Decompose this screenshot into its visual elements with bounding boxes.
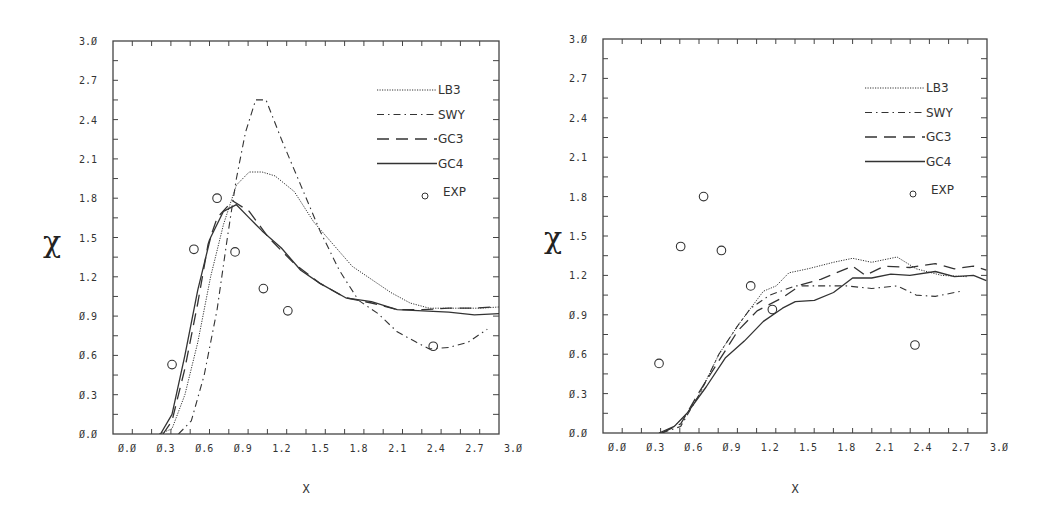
y-tick-label: 1.5 [569, 231, 587, 242]
x-tick-label: 1.5 [799, 442, 817, 453]
legend-label: LB3 [926, 81, 949, 95]
exp-data-point [699, 192, 708, 201]
legend-label: EXP [931, 183, 954, 197]
series-gc4-line [161, 205, 501, 434]
y-tick-label: 3.Ø [79, 36, 97, 47]
x-tick-label: 2.1 [388, 443, 406, 454]
y-tick-label: 1.2 [569, 270, 587, 281]
chart-right: Ø.ØØ.3Ø.6Ø.91.21.51.82.12.42.73.ØØ.ØØ.3Ø… [544, 34, 1008, 496]
legend-label: LB3 [438, 83, 461, 97]
y-tick-label: 2.4 [569, 113, 587, 124]
x-tick-label: 1.8 [350, 443, 368, 454]
y-tick-label: Ø.9 [79, 311, 97, 322]
plot-frame [113, 41, 499, 434]
x-tick-label: Ø.3 [646, 442, 664, 453]
y-tick-label: Ø.Ø [569, 428, 587, 439]
legend-label: GC3 [438, 132, 463, 146]
exp-data-point [259, 284, 268, 293]
x-tick-label: Ø.9 [234, 443, 252, 454]
exp-data-point [717, 246, 726, 255]
x-tick-label: 1.8 [837, 442, 855, 453]
series-lb3-line [159, 172, 500, 434]
y-tick-label: 1.8 [569, 192, 587, 203]
y-tick-label: Ø.6 [569, 349, 587, 360]
x-tick-label: 3.Ø [504, 443, 522, 454]
y-axis-label: χ [544, 220, 562, 255]
exp-data-point [284, 307, 293, 316]
x-tick-label: Ø.Ø [608, 442, 626, 453]
x-tick-label: 3.Ø [990, 442, 1008, 453]
x-tick-label: 2.7 [465, 443, 483, 454]
x-tick-label: 2.7 [952, 442, 970, 453]
series-lb3-line [662, 257, 968, 433]
x-tick-label: 2.4 [914, 442, 932, 453]
x-tick-label: 2.4 [427, 443, 445, 454]
legend-label: GC3 [926, 130, 951, 144]
exp-data-point [768, 305, 777, 314]
x-tick-label: Ø.3 [157, 443, 175, 454]
y-tick-label: Ø.9 [569, 310, 587, 321]
y-tick-label: 2.7 [569, 73, 587, 84]
exp-data-point [655, 359, 664, 368]
y-tick-label: 2.1 [79, 154, 97, 165]
exp-data-point [676, 242, 685, 251]
legend-label: EXP [443, 185, 466, 199]
x-axis-label: X [302, 482, 310, 496]
plot-frame [603, 39, 987, 433]
y-tick-label: 1.2 [79, 272, 97, 283]
exp-data-point [190, 245, 199, 254]
x-tick-label: 1.5 [311, 443, 329, 454]
legend-label: SWY [926, 106, 953, 120]
y-tick-label: Ø.Ø [79, 429, 97, 440]
exp-data-point [911, 341, 920, 350]
legend-label: GC4 [926, 155, 951, 169]
exp-data-point [746, 282, 755, 291]
legend-label: GC4 [438, 157, 463, 171]
y-tick-label: Ø.3 [79, 390, 97, 401]
x-tick-label: 1.2 [761, 442, 779, 453]
series-gc3-line [163, 201, 494, 434]
x-axis-label: X [791, 482, 799, 496]
y-tick-label: Ø.3 [569, 389, 587, 400]
exp-data-point [168, 360, 177, 369]
x-tick-label: 2.1 [875, 442, 893, 453]
exp-data-point [213, 194, 222, 203]
y-tick-label: 2.7 [79, 75, 97, 86]
chart-canvas: Ø.ØØ.3Ø.6Ø.91.21.51.82.12.42.73.ØØ.ØØ.3Ø… [0, 0, 1054, 512]
y-tick-label: 2.1 [569, 152, 587, 163]
chart-left: Ø.ØØ.3Ø.6Ø.91.21.51.82.12.42.73.ØØ.ØØ.3Ø… [43, 36, 522, 496]
x-tick-label: Ø.9 [723, 442, 741, 453]
y-axis-label: χ [43, 224, 61, 259]
exp-data-point [429, 342, 438, 351]
exp-data-point [231, 248, 240, 257]
legend-exp-marker [910, 191, 916, 197]
y-tick-label: 1.8 [79, 193, 97, 204]
x-tick-label: Ø.6 [684, 442, 702, 453]
series-gc3-line [662, 264, 987, 433]
x-tick-label: Ø.Ø [118, 443, 136, 454]
y-tick-label: 2.4 [79, 115, 97, 126]
x-tick-label: 1.2 [272, 443, 290, 454]
legend-label: SWY [438, 108, 465, 122]
series-swy-line [179, 100, 488, 434]
y-tick-label: 1.5 [79, 233, 97, 244]
series-swy-line [662, 286, 961, 433]
x-tick-label: Ø.6 [195, 443, 213, 454]
legend-exp-marker [422, 193, 428, 199]
y-tick-label: Ø.6 [79, 350, 97, 361]
y-tick-label: 3.Ø [569, 34, 587, 45]
